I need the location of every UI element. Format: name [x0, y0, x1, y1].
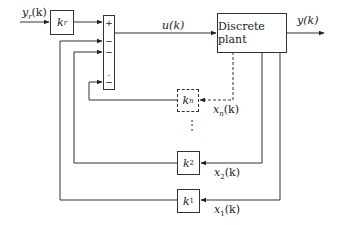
k2-main: k: [183, 157, 190, 170]
k2-sub: 2: [190, 159, 194, 167]
output-label: y(k): [297, 15, 318, 26]
kr-main: k: [57, 16, 64, 29]
state-label-x1: x1(k): [214, 204, 240, 218]
k1-main: k: [183, 195, 190, 208]
state-label-x2: x2(k): [214, 167, 240, 181]
sum-sign-minus-1: −: [104, 37, 114, 46]
control-signal-label: u(k): [162, 20, 184, 31]
state-label-xn: xn(k): [213, 104, 239, 118]
kn-sub: n: [189, 97, 194, 105]
k1-sub: 1: [190, 197, 194, 205]
k2-to-sum: [74, 52, 177, 163]
kr-sub: r: [64, 19, 67, 27]
input-label: yr(k): [22, 7, 47, 21]
x2-arg: (k): [225, 166, 240, 179]
gain-block-kn: kn: [177, 89, 199, 112]
ellipsis-vertical: ⋮: [186, 119, 198, 131]
x1-arg: (k): [225, 203, 240, 216]
discrete-plant-block: Discrete plant: [217, 13, 287, 53]
xn-feedback: [200, 52, 233, 100]
summing-junction: + − − . . −: [103, 15, 115, 90]
gain-block-k2: k2: [177, 151, 200, 175]
sum-sign-plus: +: [104, 19, 114, 28]
sum-sign-minus-2: −: [104, 48, 114, 57]
k1-to-sum: [60, 41, 177, 200]
kn-main: k: [182, 94, 189, 107]
reference-gain-block: kr: [50, 10, 74, 35]
input-label-arg: (k): [32, 6, 47, 19]
x1-feedback: [201, 52, 280, 200]
sum-sign-minus-n: −: [104, 78, 114, 87]
xn-arg: (k): [224, 103, 239, 116]
gain-block-k1: k1: [177, 189, 200, 213]
